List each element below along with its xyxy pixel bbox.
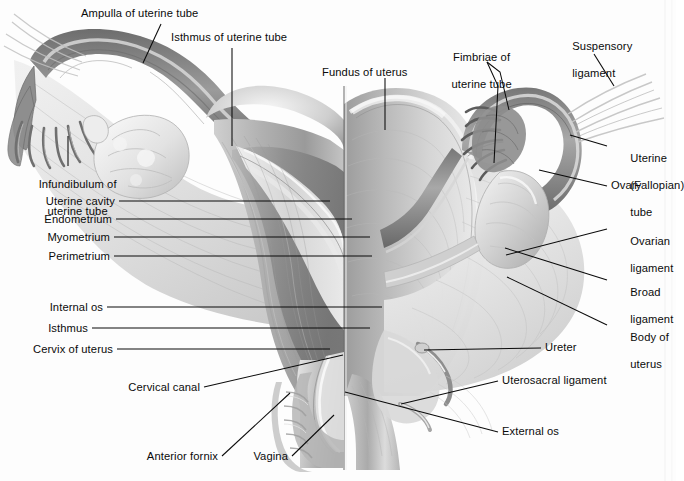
label-uterosacral-ligament: Uterosacral ligament [502, 374, 607, 387]
label-uterine-tube-line-1: Uterine [630, 152, 667, 164]
label-ovary: Ovary [611, 179, 641, 192]
label-fundus-of-uterus: Fundus of uterus [322, 66, 408, 79]
label-cervical-canal: Cervical canal [100, 381, 200, 394]
label-vagina: Vagina [230, 450, 288, 463]
label-broad-ligament-line-1: Broad [630, 286, 660, 298]
label-myometrium: Myometrium [0, 231, 110, 244]
label-fimbriae-line-2: uterine tube [451, 78, 511, 90]
label-external-os: External os [502, 425, 559, 438]
label-suspensory-line-2: ligament [572, 67, 615, 79]
label-cervix-of-uterus: Cervix of uterus [0, 343, 113, 356]
label-isthmus: Isthmus [0, 322, 88, 335]
label-anterior-fornix: Anterior fornix [118, 450, 218, 463]
label-ampulla-of-uterine-tube: Ampulla of uterine tube [81, 7, 198, 20]
label-internal-os: Internal os [0, 301, 103, 314]
label-fimbriae-line-1: Fimbriae of [453, 51, 510, 63]
label-ovarian-ligament-line-1: Ovarian [630, 235, 670, 247]
label-ureter: Ureter [545, 341, 577, 354]
label-suspensory-ligament: Suspensory ligament [553, 27, 632, 94]
label-uterine-cavity: Uterine cavity [0, 195, 115, 208]
label-infundibulum-line-1: Infundibulum of [39, 178, 117, 190]
label-uterine-tube-line-3: tube [630, 206, 652, 218]
label-fimbriae-of-uterine-tube: Fimbriae of uterine tube [424, 38, 520, 105]
label-body-of-uterus: Body of uterus [611, 318, 669, 385]
label-perimetrium: Perimetrium [0, 250, 110, 263]
label-endometrium: Endometrium [0, 213, 112, 226]
label-isthmus-of-uterine-tube: Isthmus of uterine tube [171, 31, 287, 44]
label-body-of-uterus-line-1: Body of [630, 331, 669, 343]
label-suspensory-line-1: Suspensory [572, 40, 632, 52]
label-body-of-uterus-line-2: uterus [630, 358, 662, 370]
